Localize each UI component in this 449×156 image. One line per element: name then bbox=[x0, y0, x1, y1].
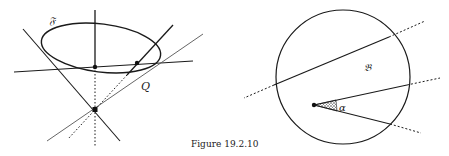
ray-upper-dashed bbox=[407, 78, 440, 85]
plane-trace-line bbox=[14, 61, 193, 72]
intersection-point bbox=[135, 61, 139, 65]
point-q-label: Q bbox=[141, 80, 150, 93]
region-label: 𝔅 bbox=[364, 62, 372, 73]
surface-label: 𝔉 bbox=[49, 15, 57, 26]
chord-line-dashed-right bbox=[389, 21, 425, 37]
ellipse-center-point bbox=[93, 65, 97, 69]
figure-caption: Figure 19.2.10 bbox=[191, 139, 259, 149]
chord-line-dashed-left bbox=[244, 85, 274, 98]
ray-upper bbox=[314, 85, 407, 105]
ray-lower bbox=[314, 105, 390, 124]
vertex-point bbox=[312, 103, 316, 107]
angle-label: α bbox=[339, 102, 346, 113]
cone-generator-right bbox=[47, 34, 203, 141]
left-panel bbox=[14, 10, 203, 147]
right-panel bbox=[244, 10, 440, 144]
figure-canvas: 𝔉 Q 𝔅 α Figure 19.2.10 bbox=[0, 0, 449, 156]
ray-lower-dashed bbox=[390, 124, 421, 133]
chord-line bbox=[274, 37, 389, 85]
apex-point bbox=[93, 107, 98, 112]
